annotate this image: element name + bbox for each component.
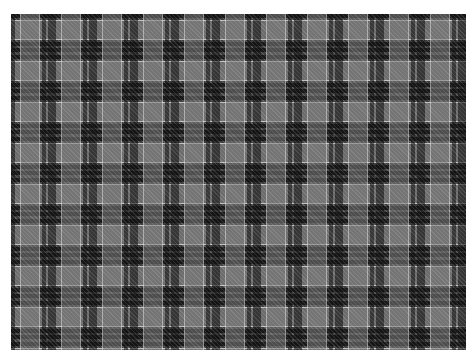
twill-overlay: [11, 14, 466, 350]
plaid-fabric-image: [11, 14, 466, 350]
cropped-caption: [0, 355, 476, 362]
